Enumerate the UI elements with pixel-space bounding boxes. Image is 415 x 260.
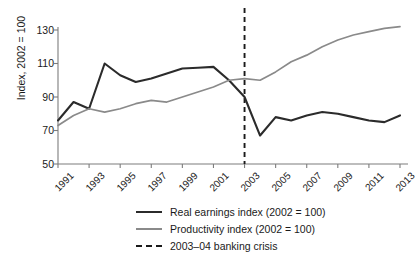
axes xyxy=(54,27,408,168)
legend-label-banking-crisis: 2003–04 banking crisis xyxy=(170,240,277,252)
legend-label-productivity: Productivity index (2002 = 100) xyxy=(170,223,315,235)
chart-legend: Real earnings index (2002 = 100) Product… xyxy=(136,203,326,254)
legend-item-productivity: Productivity index (2002 = 100) xyxy=(136,220,326,237)
chart-figure: Index, 2002 = 100 130 110 90 70 50 1991 … xyxy=(0,0,415,260)
series-lines xyxy=(58,27,400,136)
legend-swatch-banking-crisis xyxy=(136,245,162,247)
legend-label-real-earnings: Real earnings index (2002 = 100) xyxy=(170,206,326,218)
legend-item-banking-crisis: 2003–04 banking crisis xyxy=(136,237,326,254)
plot-area xyxy=(0,0,415,210)
legend-swatch-real-earnings xyxy=(136,211,162,213)
legend-swatch-productivity xyxy=(136,228,162,230)
chart-canvas xyxy=(0,0,415,210)
legend-item-real-earnings: Real earnings index (2002 = 100) xyxy=(136,203,326,220)
